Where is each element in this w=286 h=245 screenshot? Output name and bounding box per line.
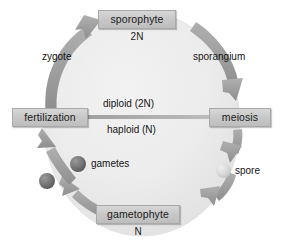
- gamete-cell-lower: [39, 173, 55, 189]
- arrow-label-zygote: zygote: [42, 51, 71, 62]
- haploid-label: haploid (N): [107, 124, 156, 135]
- arrow-label-sporangium: sporangium: [193, 51, 245, 62]
- stage-box-sporophyte[interactable]: sporophyte: [98, 10, 176, 29]
- gametophyte-ploidy-label: N: [96, 226, 180, 237]
- life-cycle-diagram: sporophyte 2N meiosis gametophyte N fert…: [0, 0, 286, 245]
- gametes-label: gametes: [91, 158, 129, 169]
- stage-box-fertilization[interactable]: fertilization: [12, 108, 88, 127]
- stage-box-meiosis[interactable]: meiosis: [209, 108, 271, 127]
- gamete-cell-upper: [70, 156, 86, 172]
- sporophyte-ploidy-label: 2N: [98, 31, 176, 42]
- diploid-label: diploid (2N): [103, 98, 154, 109]
- spore-label: spore: [235, 165, 260, 176]
- stage-box-gametophyte[interactable]: gametophyte: [96, 205, 180, 224]
- spore-cell: [216, 163, 231, 178]
